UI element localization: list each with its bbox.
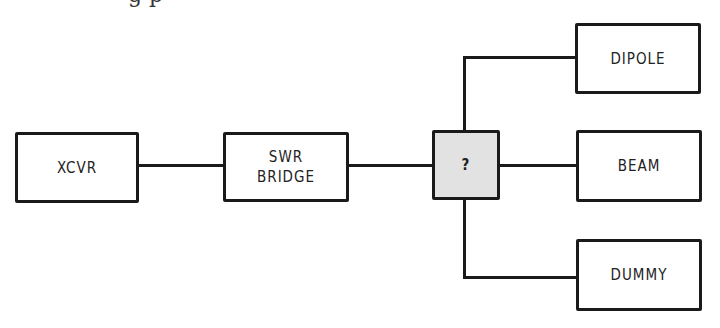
wire-to-dummy [463, 276, 577, 279]
node-dummy: DUMMY [576, 239, 702, 311]
node-dipole: DIPOLE [575, 23, 701, 94]
node-label: ? [462, 155, 471, 175]
wire-swr-to-switch [347, 164, 433, 167]
node-beam: BEAM [576, 130, 702, 202]
node-label: SWR BRIDGE [257, 147, 315, 187]
wire-switch-to-beam [498, 164, 577, 167]
clipped-caption-fragment: g p [128, 0, 163, 6]
block-diagram: g p XCVR SWR BRIDGE ? DIPOLE BEAM DUMMY [0, 0, 720, 328]
node-swr-bridge: SWR BRIDGE [223, 132, 349, 202]
node-unknown-switch: ? [432, 130, 500, 200]
node-label: XCVR [57, 158, 97, 178]
wire-switch-up-trunk [463, 56, 466, 132]
wire-xcvr-to-swr [138, 164, 224, 167]
node-xcvr: XCVR [15, 132, 139, 203]
wire-to-dipole [463, 56, 577, 59]
node-label: BEAM [618, 156, 661, 176]
node-label: DUMMY [611, 265, 668, 285]
node-label: DIPOLE [610, 49, 665, 69]
wire-switch-down-trunk [463, 198, 466, 279]
